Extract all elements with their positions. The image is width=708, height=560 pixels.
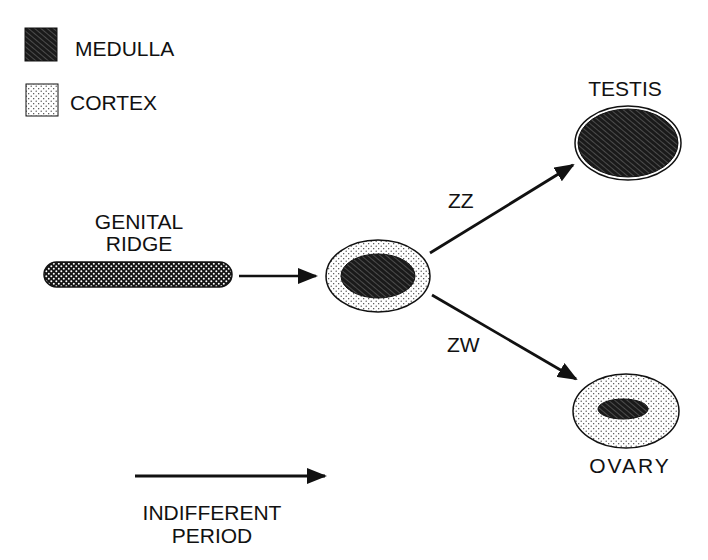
genital-ridge-shape <box>44 262 232 287</box>
testis: TESTIS <box>575 77 681 180</box>
genital-ridge: GENITAL RIDGE <box>44 210 232 287</box>
genital-ridge-label-line2: RIDGE <box>106 232 173 255</box>
legend-item-cortex: CORTEX <box>26 84 157 116</box>
ovary-medulla <box>598 399 648 419</box>
zw-label: ZW <box>447 333 480 356</box>
arrow-zw-to-ovary: ZW <box>432 295 576 379</box>
cortex-swatch-icon <box>26 84 58 116</box>
medulla-swatch-icon <box>25 28 57 61</box>
indifferent-period-label-line1: INDIFFERENT <box>143 501 282 524</box>
legend-label-medulla: MEDULLA <box>75 37 174 60</box>
genital-ridge-label-line1: GENITAL <box>95 210 183 233</box>
gonad-differentiation-diagram: MEDULLA CORTEX GENITAL RIDGE ZZ ZW TESTI… <box>0 0 708 560</box>
legend-label-cortex: CORTEX <box>70 91 157 114</box>
indifferent-gonad-medulla <box>341 254 415 298</box>
indifferent-gonad <box>326 240 430 312</box>
legend-item-medulla: MEDULLA <box>25 28 174 61</box>
arrow-zz-to-testis: ZZ <box>430 165 573 253</box>
testis-label: TESTIS <box>588 77 662 100</box>
ovary-label: OVARY <box>589 454 671 477</box>
indifferent-period-timeline: INDIFFERENT PERIOD <box>135 476 325 547</box>
legend: MEDULLA CORTEX <box>25 28 174 116</box>
indifferent-period-label-line2: PERIOD <box>172 524 253 547</box>
zz-label: ZZ <box>448 189 474 212</box>
testis-medulla <box>578 109 678 177</box>
ovary: OVARY <box>573 374 679 477</box>
